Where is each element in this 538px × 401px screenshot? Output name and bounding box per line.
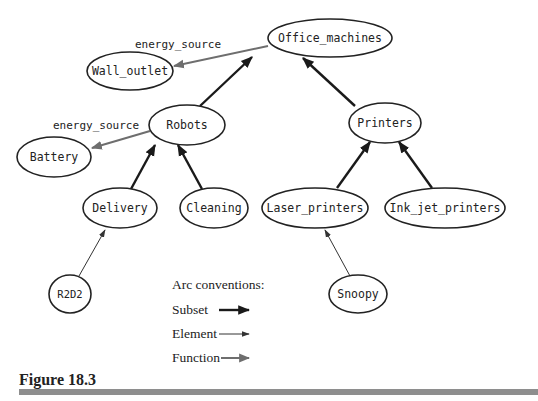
node-label: Robots	[166, 118, 208, 132]
node-label: Printers	[357, 116, 412, 130]
edge-delivery-to-robots	[131, 145, 155, 189]
edge-snoopy-to-laser-printers	[325, 230, 350, 276]
node-label: Delivery	[92, 201, 147, 215]
node-label: Wall_outlet	[92, 64, 168, 78]
node-wall-outlet: Wall_outlet	[87, 52, 173, 90]
caption-rule-divider	[19, 389, 538, 395]
node-cleaning: Cleaning	[180, 188, 248, 228]
node-laser-printers: Laser_printers	[262, 188, 368, 228]
node-label: Ink_jet_printers	[390, 201, 501, 215]
node-r2d2: R2D2	[49, 275, 91, 313]
node-label: Cleaning	[186, 201, 241, 215]
edge-label-energy-source-office: energy_source	[135, 38, 221, 51]
node-label: Snoopy	[337, 287, 379, 301]
node-label: Battery	[30, 150, 79, 164]
semantic-network-diagram: energy_source energy_source Office_machi…	[0, 0, 538, 401]
node-office-machines: Office_machines	[268, 19, 392, 57]
edge-robots-to-office-machines	[200, 57, 252, 106]
node-printers: Printers	[349, 103, 421, 143]
edge-ink-jet-printers-to-printers	[399, 142, 432, 188]
edge-printers-to-office-machines	[303, 58, 355, 106]
figure-caption: Figure 18.3	[19, 371, 96, 389]
node-robots: Robots	[149, 105, 225, 145]
edge-label-energy-source-robots: energy_source	[53, 119, 139, 132]
edge-laser-printers-to-printers	[337, 142, 370, 188]
edge-robots-energy-source	[92, 131, 150, 148]
element-edges	[79, 230, 350, 276]
node-delivery: Delivery	[83, 188, 157, 228]
legend-label-function: Function	[172, 350, 220, 365]
node-snoopy: Snoopy	[329, 275, 387, 313]
node-ink-jet-printers: Ink_jet_printers	[385, 188, 505, 228]
node-label: R2D2	[57, 288, 82, 300]
edge-r2d2-to-delivery	[79, 230, 105, 276]
legend-title: Arc conventions:	[172, 277, 265, 292]
edge-cleaning-to-robots	[178, 145, 202, 189]
legend-label-subset: Subset	[172, 302, 208, 317]
node-battery: Battery	[17, 137, 91, 177]
node-label: Laser_printers	[267, 201, 364, 215]
legend-label-element: Element	[172, 326, 217, 341]
legend: Arc conventions: Subset Element Function	[172, 277, 265, 365]
node-label: Office_machines	[278, 31, 382, 45]
